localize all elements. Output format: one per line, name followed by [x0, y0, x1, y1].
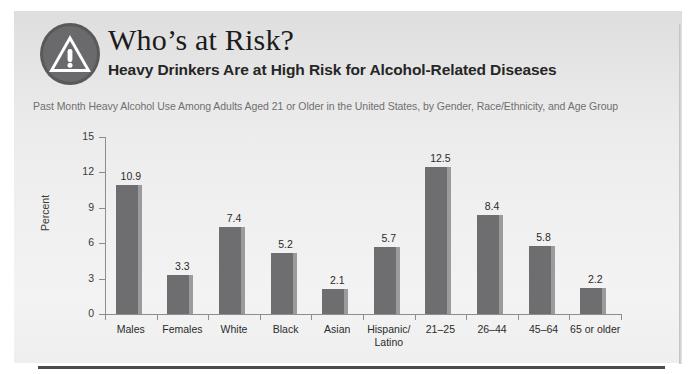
- x-tick: [621, 315, 622, 320]
- bar: [374, 247, 400, 314]
- bar-value-label: 2.2: [573, 273, 617, 285]
- y-tick-label: 3: [54, 272, 94, 284]
- x-tick: [105, 315, 106, 320]
- y-tick: [99, 172, 105, 173]
- infographic-page: Who’s at Risk? Heavy Drinkers Are at Hig…: [0, 0, 697, 374]
- x-tick: [157, 315, 158, 320]
- x-tick: [260, 315, 261, 320]
- y-axis-line: [105, 137, 106, 315]
- x-axis-label: 65 or older: [558, 323, 632, 336]
- y-tick-label: 12: [54, 165, 94, 177]
- bar-value-label: 7.4: [212, 212, 256, 224]
- bar: [219, 227, 245, 314]
- bar-value-label: 5.8: [522, 231, 566, 243]
- x-tick: [208, 315, 209, 320]
- x-tick: [311, 315, 312, 320]
- bar: [271, 253, 297, 314]
- x-tick: [518, 315, 519, 320]
- y-tick-label: 0: [54, 307, 94, 319]
- x-tick: [363, 315, 364, 320]
- x-tick: [415, 315, 416, 320]
- y-axis-title: Percent: [39, 178, 51, 248]
- bar: [477, 215, 503, 314]
- bar: [529, 246, 555, 314]
- bar: [322, 289, 348, 314]
- bar-value-label: 10.9: [109, 170, 153, 182]
- bar-chart: Percent 03691215 10.93.37.45.22.15.712.5…: [14, 11, 682, 363]
- bar: [116, 185, 142, 314]
- bar: [425, 167, 451, 315]
- poster-panel: Who’s at Risk? Heavy Drinkers Are at Hig…: [14, 11, 682, 363]
- bar-value-label: 5.2: [264, 238, 308, 250]
- y-tick-label: 9: [54, 201, 94, 213]
- bar: [167, 275, 193, 314]
- y-tick-label: 15: [54, 130, 94, 142]
- x-axis-label-line: 65 or older: [558, 323, 632, 336]
- x-axis-label-line: Latino: [352, 336, 426, 349]
- y-tick: [99, 137, 105, 138]
- y-tick-label: 6: [54, 236, 94, 248]
- bar-value-label: 2.1: [315, 274, 359, 286]
- bar-value-label: 8.4: [470, 200, 514, 212]
- x-tick: [466, 315, 467, 320]
- panel-bottom-rule: [38, 366, 665, 369]
- bar-value-label: 3.3: [160, 260, 204, 272]
- y-tick: [99, 279, 105, 280]
- bar: [580, 288, 606, 314]
- bar-value-label: 5.7: [367, 232, 411, 244]
- panel-right-shadow: [679, 24, 682, 364]
- y-tick: [99, 208, 105, 209]
- bar-value-label: 12.5: [418, 152, 462, 164]
- y-tick: [99, 243, 105, 244]
- x-tick: [569, 315, 570, 320]
